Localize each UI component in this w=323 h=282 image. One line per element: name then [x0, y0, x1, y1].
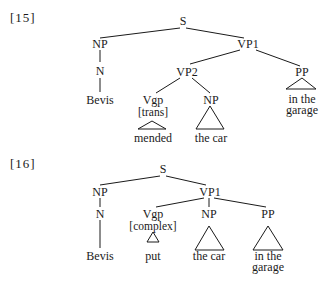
- leaf-garage: garage: [252, 261, 284, 273]
- leaf-bevis: Bevis: [86, 250, 113, 262]
- leaf-bevis: Bevis: [86, 94, 113, 106]
- feature-trans: [trans]: [138, 106, 168, 118]
- node-np: NP: [92, 38, 107, 50]
- node-pp: PP: [295, 66, 308, 78]
- node-s: S: [160, 163, 167, 175]
- leaf-put: put: [145, 250, 160, 262]
- leaf-the-car: the car: [195, 132, 227, 144]
- node-vp1: VP1: [237, 38, 258, 50]
- node-n: N: [96, 65, 105, 77]
- example-number: [16]: [10, 157, 36, 170]
- node-np2: NP: [201, 208, 216, 220]
- node-s: S: [180, 15, 187, 27]
- leaf-the-car: the car: [193, 250, 225, 262]
- feature-complex: [complex]: [129, 220, 176, 232]
- node-vp1: VP1: [199, 186, 220, 198]
- node-pp: PP: [261, 208, 274, 220]
- leaf-garage: garage: [286, 104, 318, 116]
- node-vgp: Vgp: [143, 94, 164, 106]
- node-np2: NP: [203, 94, 218, 106]
- example-number: [15]: [10, 11, 36, 24]
- node-vgp: Vgp: [143, 208, 164, 220]
- node-n: N: [96, 208, 105, 220]
- node-np: NP: [92, 186, 107, 198]
- leaf-mended: mended: [134, 132, 172, 144]
- node-vp2: VP2: [176, 66, 197, 78]
